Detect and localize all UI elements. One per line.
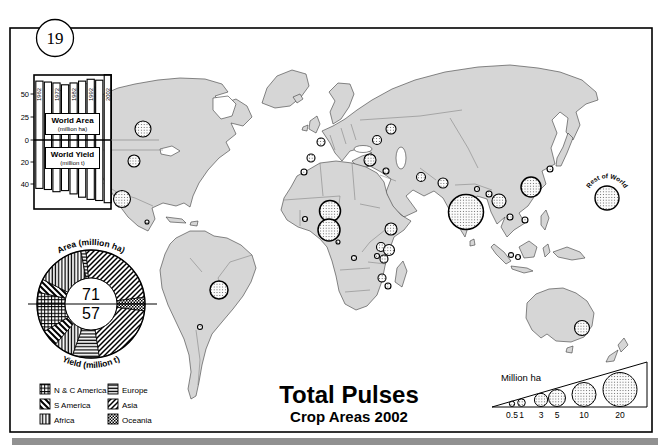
rest-of-world-bubble: [595, 186, 619, 210]
world-area-label: World Area: [51, 116, 94, 125]
crop-area-bubble-china: [521, 177, 541, 197]
atlas-page: Rest of World 19621972198219922002 50250…: [0, 0, 661, 447]
crop-area-bubble-senegal: [303, 217, 308, 222]
crop-area-bubble-mozambique: [385, 283, 391, 289]
scale-circle: [572, 382, 596, 406]
crop-area-bubble-ukraine: [373, 136, 382, 145]
hlines-swatch-icon: [108, 384, 118, 394]
figure-canvas: Rest of World 19621972198219922002 50250…: [0, 0, 661, 447]
bar-year-label: 1972: [54, 88, 60, 101]
bars: 19621972198219922002: [36, 75, 112, 203]
legend-label: N & C America: [54, 386, 107, 395]
black-sea: [354, 146, 372, 153]
scale-value-label: 1: [519, 410, 524, 420]
bar-year-label: 1982: [71, 88, 77, 101]
legend-item-asia: Asia: [108, 399, 138, 410]
legend-item-oceania: Oceania: [108, 414, 152, 425]
dense-swatch-icon: [108, 414, 118, 424]
crop-area-bubble-kenya: [384, 245, 395, 256]
bdiag-swatch-icon: [40, 399, 50, 409]
crop-area-bubble-korea-japan: [547, 166, 553, 172]
scale-value-label: 3: [539, 410, 544, 420]
crop-area-bubble-russia: [386, 124, 396, 134]
legend-item-n-c-america: N & C America: [40, 384, 107, 395]
crop-area-bubble-usa: [128, 155, 140, 167]
crop-area-bubble-rwanda-burundi: [375, 254, 380, 259]
crop-area-bubble-dr-congo: [352, 256, 357, 261]
crop-area-bubble-vietnam: [522, 217, 528, 223]
tick-label: 20: [21, 158, 29, 167]
crop-area-bubble-france: [317, 138, 325, 146]
legend-label: Asia: [122, 401, 138, 410]
crop-area-bubble-central-america: [145, 220, 149, 224]
caspian-sea: [396, 147, 406, 169]
page-bottom-band: [12, 438, 658, 445]
crop-area-bubble-nigeria: [318, 219, 340, 241]
crop-area-bubble-bangladesh: [486, 191, 492, 197]
legend-item-europe: Europe: [108, 384, 148, 395]
crop-area-bubble-canada: [135, 121, 151, 137]
crop-area-bubble-ethiopia: [385, 223, 397, 235]
crop-area-bubble-cameroon: [336, 240, 340, 244]
tick-label: 0: [25, 136, 29, 145]
crop-area-bubble-pakistan: [438, 178, 448, 188]
scale-circle: [518, 399, 526, 407]
legend-label: Oceania: [122, 416, 152, 425]
scale-value-label: 0.5: [506, 410, 518, 420]
tick-label: 40: [21, 180, 29, 189]
crop-area-bubble-thailand: [507, 214, 513, 220]
crop-area-bubble-brazil: [210, 281, 228, 299]
page-title: Total Pulses: [279, 381, 419, 408]
year-bar: [61, 85, 68, 191]
world-area-label-box: World Area (million ha): [46, 114, 100, 135]
scale-circle: [534, 393, 547, 406]
crop-area-bubble-iran: [417, 173, 426, 182]
tick-label: 25: [21, 113, 29, 122]
legend-label: Africa: [54, 416, 75, 425]
year-bar: [79, 81, 86, 197]
area-total-value: 71: [82, 286, 100, 303]
landmass-hispaniola: [190, 221, 198, 226]
crop-area-bubble-tanzania: [380, 255, 388, 263]
scale-unit-label: Million ha: [501, 372, 542, 383]
crop-area-bubble-nepal: [475, 187, 480, 192]
legend-label: Europe: [122, 386, 148, 395]
scale-circle: [603, 373, 637, 407]
crop-area-bubble-argentina: [198, 325, 203, 330]
crop-area-bubble-turkey: [364, 154, 376, 166]
world-yield-unit: (million t): [60, 160, 84, 166]
scale-circle: [509, 401, 514, 406]
scale-value-label: 5: [555, 410, 560, 420]
world-yield-label-box: World Yield (million t): [46, 148, 100, 169]
bar-year-label: 1962: [36, 88, 42, 101]
bar-year-label: 2002: [105, 88, 111, 101]
crop-area-bubble-spain: [307, 154, 315, 162]
grid-swatch-icon: [40, 384, 50, 394]
figure-number-badge: 19: [37, 20, 74, 57]
scale-value-label: 10: [579, 410, 589, 420]
crop-area-bubble-indonesia-east: [516, 255, 521, 260]
crop-area-bubble-mexico: [114, 191, 131, 208]
fdiag-swatch-icon: [108, 399, 118, 409]
crop-area-bubble-syria: [383, 168, 389, 174]
crop-area-bubble-indonesia-west: [509, 253, 514, 258]
crop-area-bubble-morocco: [301, 169, 307, 175]
legend-item-s-america: S America: [40, 399, 91, 410]
crop-area-bubble-malawi: [378, 274, 386, 282]
crop-area-bubble-india: [449, 195, 484, 230]
world-yield-label: World Yield: [51, 150, 95, 159]
bar-year-label: 1992: [88, 88, 94, 101]
crop-area-bubble-myanmar: [492, 194, 506, 208]
world-area-unit: (million ha): [58, 126, 87, 132]
vlines-swatch-icon: [40, 414, 50, 424]
tick-label: 50: [21, 90, 29, 99]
scale-circle: [549, 390, 566, 407]
legend-label: S America: [54, 401, 91, 410]
legend-item-africa: Africa: [40, 414, 75, 425]
crop-area-bubble-australia: [575, 321, 590, 336]
scale-value-label: 20: [615, 410, 625, 420]
year-bar: [44, 82, 51, 189]
page-subtitle: Crop Areas 2002: [290, 408, 408, 425]
yield-total-value: 57: [82, 305, 100, 322]
figure-number: 19: [47, 29, 64, 48]
